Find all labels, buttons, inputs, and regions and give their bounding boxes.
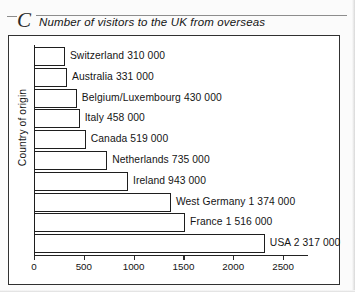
x-axis-tick-mark	[134, 256, 135, 260]
chart-frame: Switzerland 310 000Australia 331 000Belg…	[8, 35, 340, 285]
bar-value-label: Canada 519 000	[91, 133, 169, 144]
x-axis-tick-label: 500	[76, 261, 92, 272]
bar	[34, 151, 107, 170]
bar-value-label: USA 2 317 000	[270, 237, 341, 248]
section-letter: C	[17, 10, 31, 31]
bar	[34, 68, 67, 87]
x-axis-tick-mark	[233, 256, 234, 260]
bar-value-label: Italy 458 000	[85, 112, 145, 123]
bar-value-label: Ireland 943 000	[133, 175, 206, 186]
x-axis-tick-label: 0	[31, 261, 36, 272]
chart-title-block: C Number of visitors to the UK from over…	[7, 11, 347, 33]
bar	[34, 193, 171, 212]
x-axis-tick-mark	[34, 256, 35, 260]
bar	[34, 89, 77, 108]
x-axis-tick-label: 1000	[123, 261, 145, 272]
bar	[34, 109, 80, 128]
bar	[34, 130, 86, 149]
bar	[34, 213, 185, 232]
x-axis-tick-mark	[183, 256, 184, 260]
bar-value-label: Switzerland 310 000	[70, 50, 165, 61]
x-axis-tick-mark	[283, 256, 284, 260]
bar	[34, 172, 128, 191]
title-rule-left	[7, 16, 17, 17]
bar-value-label: West Germany 1 374 000	[176, 196, 295, 207]
x-axis-tick-label: 2500	[272, 261, 294, 272]
plot-area: Switzerland 310 000Australia 331 000Belg…	[34, 45, 332, 255]
bar-value-label: France 1 516 000	[190, 216, 272, 227]
bar-value-label: Belgium/Luxembourg 430 000	[82, 92, 222, 103]
x-axis-line	[34, 255, 308, 256]
bar	[34, 47, 65, 66]
bar-value-label: Netherlands 735 000	[112, 154, 210, 165]
x-axis-tick-mark	[84, 256, 85, 260]
bar	[34, 234, 265, 253]
x-axis-tick-label: 2000	[222, 261, 244, 272]
y-axis-title: Country of origin	[17, 68, 28, 188]
chart-title: Number of visitors to the UK from overse…	[39, 16, 265, 28]
bar-value-label: Australia 331 000	[72, 71, 154, 82]
x-axis-tick-label: 1500	[173, 261, 195, 272]
